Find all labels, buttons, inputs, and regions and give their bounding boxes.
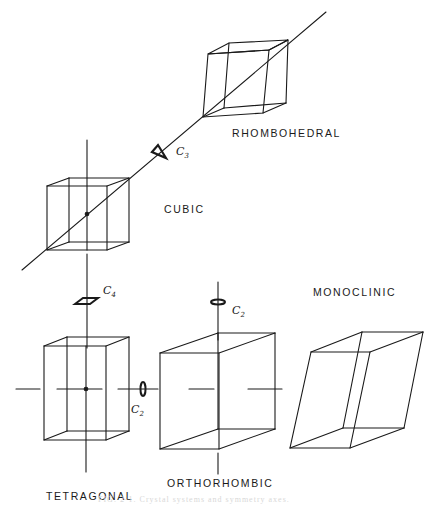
c2-horizontal-symbol: C2	[131, 403, 144, 418]
orthorhombic-label: ORTHORHOMBIC	[167, 477, 274, 489]
c3-axis-line	[22, 12, 326, 270]
tetragonal-center-dot	[84, 387, 88, 391]
c3-triangle-icon	[152, 145, 166, 158]
figure-caption: FIG. 2-1. Crystal systems and symmetry a…	[98, 495, 290, 504]
cubic-center-dot	[85, 212, 89, 216]
c2-vertical-symbol: C2	[232, 304, 245, 319]
orthorhombic-cell	[160, 282, 282, 474]
c4-symbol: C4	[103, 284, 116, 299]
cubic-cell	[47, 140, 129, 250]
c3-symbol: C3	[176, 145, 189, 160]
rhombohedral-label: RHOMBOHEDRAL	[232, 127, 341, 139]
monoclinic-label: MONOCLINIC	[313, 286, 396, 298]
cubic-label: CUBIC	[164, 203, 205, 215]
monoclinic-cell	[290, 332, 423, 448]
crystal-systems-diagram	[0, 0, 438, 514]
